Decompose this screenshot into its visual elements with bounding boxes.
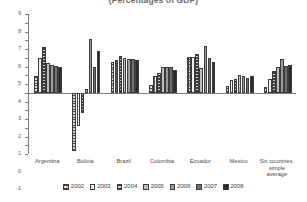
y-tick: 8 bbox=[25, 23, 28, 24]
bar bbox=[50, 65, 54, 93]
legend-item[interactable]: 2006 bbox=[170, 184, 191, 190]
bar bbox=[54, 66, 58, 93]
legend-swatch-icon bbox=[143, 184, 149, 190]
bar bbox=[204, 46, 208, 92]
y-tick-label: 0 bbox=[18, 169, 21, 175]
bar bbox=[123, 58, 127, 93]
chart-title: (Percentages of GDP) bbox=[0, 0, 307, 5]
bar bbox=[127, 59, 131, 93]
y-tick-label: 9 bbox=[18, 11, 21, 17]
bar bbox=[288, 65, 292, 93]
bar bbox=[246, 78, 250, 93]
category-label-line: Mexico bbox=[219, 158, 257, 165]
bar bbox=[153, 76, 157, 93]
y-tick: 7 bbox=[25, 32, 28, 33]
legend-item[interactable]: 2004 bbox=[117, 184, 138, 190]
category-label-line: Argentina bbox=[28, 158, 66, 165]
bar bbox=[199, 68, 203, 93]
legend-item[interactable]: 2002 bbox=[63, 184, 84, 190]
legend-item[interactable]: 2005 bbox=[143, 184, 164, 190]
bar bbox=[77, 93, 81, 126]
legend-label: 2005 bbox=[151, 184, 164, 190]
legend-label: 2003 bbox=[97, 184, 110, 190]
bar bbox=[230, 80, 234, 93]
y-tick-label: 4 bbox=[18, 99, 21, 105]
y-tick-label: 6 bbox=[18, 64, 21, 70]
legend-label: 2006 bbox=[177, 184, 190, 190]
legend-label: 2008 bbox=[231, 184, 244, 190]
bar-chart: (Percentages of GDP) 9876543210-1-2-3-4-… bbox=[0, 0, 307, 202]
bar bbox=[85, 89, 89, 93]
legend-item[interactable]: 2003 bbox=[90, 184, 111, 190]
bar bbox=[58, 67, 62, 93]
bar-group bbox=[144, 14, 182, 154]
bar-group bbox=[220, 14, 258, 154]
bar bbox=[119, 56, 123, 93]
y-tick: -3 bbox=[25, 119, 28, 120]
y-tick-label: 5 bbox=[18, 81, 21, 87]
bar bbox=[238, 75, 242, 93]
plot-area: 9876543210-1-2-3-4-5-6-7 bbox=[28, 14, 296, 154]
bar bbox=[42, 47, 46, 93]
legend-item[interactable]: 2007 bbox=[196, 184, 217, 190]
y-tick-label: 1 bbox=[18, 151, 21, 157]
y-tick: -1 bbox=[25, 102, 28, 103]
bar bbox=[234, 79, 238, 93]
bar bbox=[268, 79, 272, 93]
bar-group bbox=[67, 14, 105, 154]
bar bbox=[115, 60, 119, 92]
category-label: Mexico bbox=[219, 158, 257, 165]
legend-swatch-icon bbox=[90, 184, 96, 190]
y-tick-label: 3 bbox=[18, 116, 21, 122]
y-tick: 9 bbox=[25, 14, 28, 15]
bar bbox=[169, 67, 173, 92]
bar bbox=[272, 71, 276, 93]
bar bbox=[135, 60, 139, 92]
y-tick: -6 bbox=[25, 145, 28, 146]
y-tick: 2 bbox=[25, 75, 28, 76]
category-label-line: Ecuador bbox=[181, 158, 219, 165]
legend-label: 2004 bbox=[124, 184, 137, 190]
bar bbox=[72, 93, 76, 152]
y-tick: 1 bbox=[25, 84, 28, 85]
y-tick: -2 bbox=[25, 110, 28, 111]
category-label-line: Bolivia bbox=[66, 158, 104, 165]
category-label-line: Colombia bbox=[143, 158, 181, 165]
y-tick-label: 7 bbox=[18, 46, 21, 52]
bar bbox=[242, 76, 246, 93]
category-label: Brazil bbox=[105, 158, 143, 165]
legend-item[interactable]: 2008 bbox=[223, 184, 244, 190]
category-label: Bolivia bbox=[66, 158, 104, 165]
bar-group bbox=[29, 14, 67, 154]
bar bbox=[276, 67, 280, 92]
bar-group bbox=[182, 14, 220, 154]
bar bbox=[165, 67, 169, 93]
bar bbox=[89, 39, 93, 93]
bar bbox=[208, 58, 212, 93]
bar bbox=[212, 62, 216, 93]
bar bbox=[173, 70, 177, 93]
category-label: Six countries,simple average bbox=[258, 158, 296, 178]
bar bbox=[191, 57, 195, 93]
y-tick: 3 bbox=[25, 67, 28, 68]
bar bbox=[195, 54, 199, 93]
bar bbox=[97, 51, 101, 93]
bar-group bbox=[106, 14, 144, 154]
legend-swatch-icon bbox=[170, 184, 176, 190]
bar bbox=[131, 59, 135, 93]
bar-group bbox=[259, 14, 297, 154]
bar bbox=[250, 76, 254, 93]
bar bbox=[81, 93, 85, 113]
bar bbox=[264, 87, 268, 93]
bar bbox=[93, 67, 97, 93]
bar bbox=[284, 66, 288, 93]
category-label-line: simple average bbox=[258, 165, 296, 178]
legend-swatch-icon bbox=[63, 184, 69, 190]
y-tick-label: 2 bbox=[18, 134, 21, 140]
bar bbox=[157, 73, 161, 93]
legend-swatch-icon bbox=[223, 184, 229, 190]
category-labels: ArgentinaBoliviaBrazilColombiaEcuadorMex… bbox=[28, 158, 296, 180]
bar bbox=[161, 67, 165, 93]
category-label-line: Brazil bbox=[105, 158, 143, 165]
y-tick: -7 bbox=[25, 154, 28, 155]
